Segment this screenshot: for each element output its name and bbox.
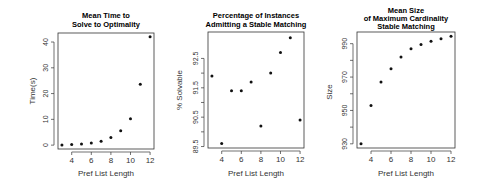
plot-frame — [357, 32, 455, 148]
y-tick-label: 90.5 — [192, 110, 199, 124]
y-tick-label: 0 — [42, 143, 49, 147]
x-tick-label: 8 — [109, 156, 114, 165]
chart-title-line-1: Mean Time to — [82, 11, 130, 20]
y-tick-label: 91.5 — [192, 81, 199, 95]
chart-mean-size: Mean Size of Maximum Cardinality Stable … — [320, 0, 480, 184]
data-point — [410, 47, 413, 50]
chart-panel-percent-solvable: Percentage of Instances Admitting a Stab… — [160, 0, 320, 184]
data-point — [289, 36, 292, 39]
data-point — [139, 83, 142, 86]
y-tick-label: 10 — [42, 115, 49, 123]
chart-percent-solvable: Percentage of Instances Admitting a Stab… — [160, 0, 320, 184]
x-tick-label: 4 — [219, 155, 224, 164]
data-point — [109, 136, 112, 139]
data-points — [60, 35, 151, 146]
data-point — [60, 143, 63, 146]
chart-title-line-3: Stable Matching — [377, 22, 435, 31]
y-tick-label: 20 — [42, 90, 49, 98]
x-axis-label: Pref List Length — [378, 169, 434, 178]
data-point — [149, 35, 152, 38]
data-point — [390, 67, 393, 70]
y-tick-label: 990 — [341, 38, 348, 50]
data-point — [299, 119, 302, 122]
data-point — [129, 117, 132, 120]
y-tick-label: 89.5 — [192, 140, 199, 154]
data-point — [90, 142, 93, 145]
data-point — [230, 89, 233, 92]
data-point — [220, 142, 223, 145]
data-point — [370, 104, 373, 107]
x-axis-label: Pref List Length — [228, 169, 284, 178]
chart-mean-time: Mean Time to Solve to Optimality 0102030… — [0, 0, 160, 184]
x-tick-label: 8 — [409, 155, 414, 164]
data-point — [440, 37, 443, 40]
data-point — [100, 140, 103, 143]
y-tick-label: 930 — [341, 138, 348, 150]
y-axis: 010203040 — [42, 38, 54, 147]
x-tick-label: 10 — [427, 155, 436, 164]
x-axis: 4681012 — [369, 151, 456, 164]
chart-title-line-2: Admitting a Stable Matching — [206, 20, 307, 29]
x-tick-label: 6 — [89, 156, 94, 165]
y-axis-label: Time(s) — [28, 77, 37, 104]
y-axis: 89.590.591.592.5 — [192, 52, 204, 154]
chart-panel-mean-size: Mean Size of Maximum Cardinality Stable … — [320, 0, 480, 184]
data-point — [259, 124, 262, 127]
data-point — [240, 89, 243, 92]
y-tick-label: 30 — [42, 64, 49, 72]
y-axis: 930950970990 — [341, 38, 353, 150]
x-tick-label: 6 — [389, 155, 394, 164]
x-tick-label: 12 — [296, 155, 305, 164]
chart-title-line-1: Percentage of Instances — [213, 11, 299, 20]
data-point — [250, 80, 253, 83]
y-tick-label: 40 — [42, 38, 49, 46]
x-tick-label: 4 — [369, 155, 374, 164]
data-point — [80, 143, 83, 146]
data-point — [210, 75, 213, 78]
y-tick-label: 950 — [341, 105, 348, 117]
y-tick-label: 970 — [341, 71, 348, 83]
data-point — [279, 51, 282, 54]
data-point — [400, 56, 403, 59]
data-point — [420, 43, 423, 46]
x-axis-label: Pref List Length — [78, 169, 134, 178]
data-points — [210, 36, 301, 145]
y-axis-label: Size — [325, 84, 334, 100]
x-tick-label: 8 — [259, 155, 264, 164]
data-point — [450, 35, 453, 38]
data-point — [430, 40, 433, 43]
x-axis: 4681012 — [69, 152, 155, 165]
data-point — [380, 81, 383, 84]
data-point — [119, 129, 122, 132]
x-tick-label: 10 — [276, 155, 285, 164]
x-tick-label: 4 — [69, 156, 74, 165]
y-axis-label: % Solvable — [175, 69, 184, 110]
x-tick-label: 6 — [239, 155, 244, 164]
data-point — [70, 143, 73, 146]
y-tick-label: 92.5 — [192, 52, 199, 66]
chart-panel-mean-time: Mean Time to Solve to Optimality 0102030… — [0, 0, 160, 184]
data-point — [269, 72, 272, 75]
data-point — [360, 142, 363, 145]
data-points — [360, 35, 453, 146]
x-tick-label: 12 — [447, 155, 456, 164]
chart-title-line-2: Solve to Optimality — [72, 20, 141, 29]
plot-frame — [208, 32, 304, 148]
x-tick-label: 12 — [146, 156, 155, 165]
plot-frame — [58, 33, 154, 149]
x-tick-label: 10 — [126, 156, 135, 165]
x-axis: 4681012 — [219, 151, 305, 164]
